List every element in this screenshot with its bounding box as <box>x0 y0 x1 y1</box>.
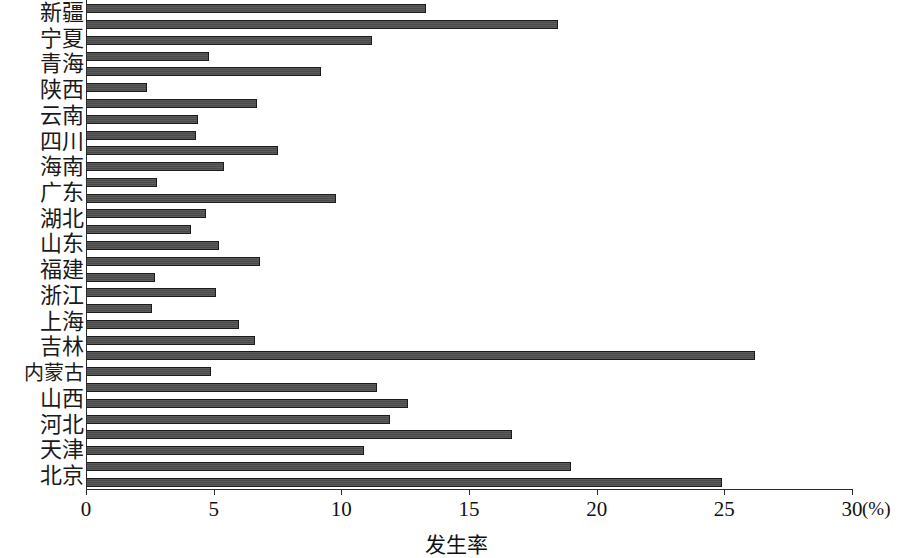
category-label-char: 夏 <box>62 28 84 50</box>
bar-row <box>86 336 255 345</box>
category-label-char: 福 <box>40 259 62 281</box>
bar-row <box>86 67 321 76</box>
x-axis-tick-label: 15 <box>459 497 480 522</box>
category-label: 湖北 <box>0 206 84 232</box>
bar <box>86 225 191 234</box>
bar-row <box>86 194 336 203</box>
x-axis-tick <box>86 489 87 495</box>
category-label-char: 林 <box>62 336 84 358</box>
bar <box>86 241 219 250</box>
category-label: 海南 <box>0 154 84 180</box>
category-label-char: 东 <box>62 233 84 255</box>
bar-row <box>86 241 219 250</box>
bar-chart: 新疆宁夏青海陕西云南四川海南广东湖北山东福建浙江上海吉林内蒙古山西河北天津北京 … <box>0 0 913 558</box>
category-label: 云南 <box>0 103 84 129</box>
x-axis-unit-label: (%) <box>862 498 890 520</box>
category-label-char: 内 <box>24 363 44 383</box>
bar-row <box>86 115 198 124</box>
bar <box>86 146 278 155</box>
bar <box>86 446 364 455</box>
category-label: 河北 <box>0 412 84 438</box>
x-axis-tick-label: 20 <box>586 497 607 522</box>
bar <box>86 83 147 92</box>
category-label-char: 北 <box>62 208 84 230</box>
bar-row <box>86 367 211 376</box>
category-label: 吉林 <box>0 335 84 361</box>
bar <box>86 4 426 13</box>
bar <box>86 67 321 76</box>
bar-row <box>86 162 224 171</box>
x-axis-tick <box>852 489 853 495</box>
bar <box>86 52 209 61</box>
bar <box>86 383 377 392</box>
bar <box>86 162 224 171</box>
bar <box>86 478 722 487</box>
category-label-char: 疆 <box>62 2 84 24</box>
category-label-char: 东 <box>62 182 84 204</box>
category-label-char: 四 <box>40 131 62 153</box>
bar-row <box>86 320 239 329</box>
category-label: 北京 <box>0 463 84 489</box>
category-label-char: 古 <box>64 363 84 383</box>
bar <box>86 20 558 29</box>
category-label: 广东 <box>0 180 84 206</box>
bar-row <box>86 20 558 29</box>
bar <box>86 288 216 297</box>
bar-row <box>86 430 512 439</box>
category-label-char: 吉 <box>40 336 62 358</box>
category-label-char: 南 <box>62 105 84 127</box>
bar <box>86 131 196 140</box>
bar-row <box>86 399 408 408</box>
bar-row <box>86 478 722 487</box>
bar-row <box>86 446 364 455</box>
category-label-char: 河 <box>40 414 62 436</box>
x-axis-tick-label: 0 <box>81 497 92 522</box>
category-label: 山西 <box>0 386 84 412</box>
bar-row <box>86 131 196 140</box>
bar-row <box>86 273 155 282</box>
bar-row <box>86 415 390 424</box>
bar <box>86 99 257 108</box>
x-axis-tick <box>724 489 725 495</box>
category-label-char: 云 <box>40 105 62 127</box>
bar-row <box>86 288 216 297</box>
bar <box>86 367 211 376</box>
category-label-char: 南 <box>62 156 84 178</box>
category-label: 浙江 <box>0 283 84 309</box>
bar-row <box>86 83 147 92</box>
x-axis-tick <box>341 489 342 495</box>
category-label: 新疆 <box>0 0 84 26</box>
bar-row <box>86 209 206 218</box>
y-axis-line <box>86 0 87 489</box>
bar <box>86 194 336 203</box>
bar-row <box>86 36 372 45</box>
bar-row <box>86 304 152 313</box>
bar-row <box>86 225 191 234</box>
bar <box>86 257 260 266</box>
category-label: 陕西 <box>0 77 84 103</box>
bar <box>86 273 155 282</box>
bar <box>86 320 239 329</box>
category-label-char: 海 <box>62 311 84 333</box>
bar <box>86 430 512 439</box>
bar <box>86 336 255 345</box>
category-label-char: 津 <box>62 439 84 461</box>
category-label-char: 京 <box>62 465 84 487</box>
bar <box>86 304 152 313</box>
bar-row <box>86 52 209 61</box>
bar <box>86 399 408 408</box>
bar <box>86 36 372 45</box>
bar <box>86 415 390 424</box>
x-axis-title: 发生率 <box>0 528 913 558</box>
category-label-char: 蒙 <box>44 363 64 383</box>
bar-row <box>86 146 278 155</box>
category-label-char: 山 <box>40 388 62 410</box>
category-label-char: 上 <box>40 311 62 333</box>
category-label-char: 西 <box>62 79 84 101</box>
x-axis-tick-label: 10 <box>331 497 352 522</box>
category-label-char: 浙 <box>40 285 62 307</box>
category-label: 宁夏 <box>0 26 84 52</box>
category-label-char: 青 <box>40 53 62 75</box>
plot-area <box>86 0 876 488</box>
x-axis-tick-label: 5 <box>208 497 219 522</box>
